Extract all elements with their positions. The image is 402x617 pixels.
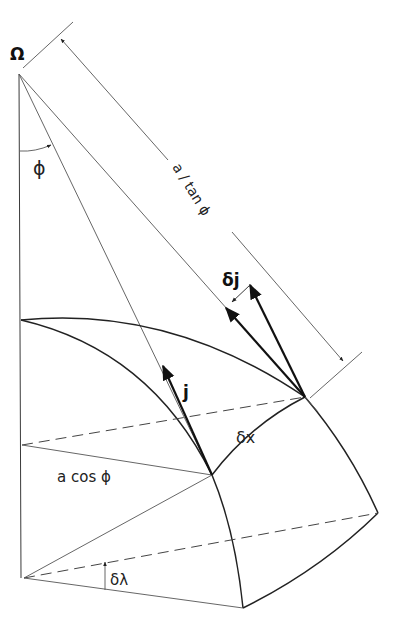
bottom-latitude-arc bbox=[243, 513, 378, 608]
radius-line-bottom bbox=[24, 578, 243, 608]
delta-j-label: δj bbox=[222, 270, 240, 290]
rotation-axis bbox=[19, 74, 21, 578]
delta-x-arc bbox=[212, 397, 305, 475]
a-over-tan-phi-label: a / tan ϕ bbox=[169, 160, 214, 218]
a-cos-phi-line bbox=[22, 445, 212, 475]
delta-x-label: δx bbox=[236, 428, 255, 447]
j-label: j bbox=[182, 382, 189, 402]
dashed-line-bottom bbox=[24, 513, 378, 578]
phi-angle-arc bbox=[20, 145, 51, 151]
dimension-line-lower bbox=[232, 232, 343, 361]
dashed-line-mid bbox=[22, 397, 305, 445]
line-q-extension bbox=[305, 397, 318, 412]
meridian-arc-lower-right bbox=[305, 397, 378, 513]
upper-latitude-arc bbox=[21, 318, 305, 397]
apex-line-to-p bbox=[19, 74, 212, 475]
radius-line-to-p bbox=[24, 475, 212, 578]
omega-label: Ω bbox=[10, 44, 24, 64]
meridian-arc-lower-left bbox=[212, 475, 243, 608]
delta-lambda-label: δλ bbox=[110, 571, 128, 589]
geometry-diagram: Ω ϕ a / tan ϕ δj j δx a cos ϕ δλ bbox=[0, 0, 402, 617]
vector-j-plus-dj bbox=[226, 308, 305, 397]
dimension-tick-top bbox=[23, 22, 73, 68]
dimension-tick-bottom bbox=[310, 352, 362, 398]
a-cos-phi-label: a cos ϕ bbox=[57, 468, 111, 486]
dimension-line-upper bbox=[61, 39, 168, 160]
phi-label: ϕ bbox=[33, 157, 46, 179]
